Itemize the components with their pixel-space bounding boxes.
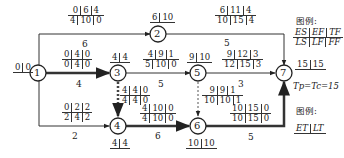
- node-3-id: 3: [114, 68, 120, 78]
- activity-1-3-params: 040 040: [62, 50, 92, 69]
- activity-1-2-duration: 6: [82, 39, 88, 49]
- node-7-id: 7: [280, 68, 286, 78]
- legend-title-2: 图例:: [296, 106, 317, 116]
- node-3-et-lt: 44: [110, 53, 130, 63]
- activity-1-4-duration: 2: [72, 131, 78, 141]
- activity-5-7-params: 9123 12153: [222, 50, 263, 69]
- node-2-id: 2: [154, 29, 160, 39]
- node-1-et-lt: 00: [13, 63, 33, 73]
- node-1-id: 1: [34, 68, 40, 78]
- node-5-id: 5: [194, 68, 200, 78]
- node-7-et-lt: 1515: [295, 60, 326, 70]
- diagram-edges: [0, 0, 344, 158]
- node-2-et-lt: 610: [150, 13, 175, 23]
- edge-1-2: [39, 34, 150, 65]
- activity-6-7-params: 10150 10150: [230, 104, 271, 123]
- activity-1-2-params: 064 4100: [68, 6, 104, 25]
- activity-1-3-duration: 4: [76, 79, 82, 89]
- activity-3-5-duration: 5: [158, 79, 164, 89]
- node-6-et-lt: 1010: [186, 139, 217, 149]
- activity-2-7-duration: 5: [224, 38, 230, 48]
- node-4-et-lt: 44: [110, 139, 130, 149]
- activity-2-7-params: 6114 10154: [215, 6, 256, 25]
- activity-3-5-params: 491 5100: [143, 50, 179, 69]
- legend-tp-tc: Tp=Tc=15: [293, 81, 339, 91]
- activity-6-7-duration: 5: [248, 132, 254, 142]
- activity-4-6-params: 4100 4100: [140, 104, 176, 123]
- node-5-et-lt: 910: [187, 53, 212, 63]
- legend-et-lt: ETLT: [294, 124, 326, 134]
- node-6-id: 6: [194, 121, 200, 131]
- activity-1-4-params: 022 242: [62, 103, 92, 122]
- node-4-id: 4: [114, 121, 120, 131]
- activity-4-6-duration: 6: [155, 131, 161, 141]
- legend-activity-params: ESEFTF LSLFFF: [293, 28, 343, 47]
- network-diagram: 1 2 3 4 5 6 7 00 610 44 44 910 1010 1515…: [0, 0, 344, 158]
- legend-title: 图例:: [296, 16, 317, 26]
